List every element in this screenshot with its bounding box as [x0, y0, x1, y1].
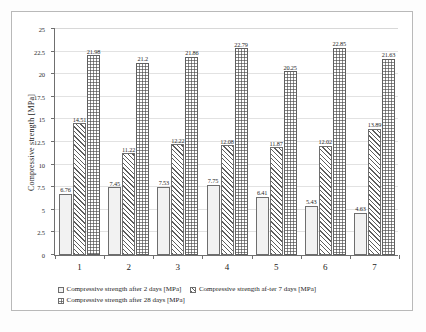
bar-group: 5.4312.0222.85 — [305, 29, 346, 255]
y-axis-tick-label: 20 — [39, 71, 45, 78]
legend-label: Compressive strength after 28 days [MPa] — [67, 295, 185, 306]
bar-value-label: 12.22 — [171, 137, 184, 144]
y-axis-tick: 5 — [51, 209, 55, 210]
y-axis-tick-label: 10 — [39, 161, 45, 168]
x-axis-tick — [301, 255, 302, 259]
legend-swatch-icon — [58, 298, 64, 304]
bar-value-label: 13.89 — [368, 121, 381, 128]
x-axis-tick — [252, 255, 253, 259]
y-axis-tick: 15 — [51, 118, 55, 119]
bar: 21.63 — [382, 59, 395, 255]
bar: 11.87 — [270, 147, 283, 255]
bar-value-label: 14.51 — [73, 116, 86, 123]
bar: 21.98 — [87, 55, 100, 255]
bar: 6.76 — [59, 194, 72, 255]
x-axis-category-label: 4 — [225, 262, 230, 272]
y-axis-tick: 25 — [51, 28, 55, 29]
y-axis-tick-label: 5 — [42, 206, 45, 213]
bar: 7.45 — [108, 187, 121, 255]
bar: 7.53 — [157, 187, 170, 255]
legend-item[interactable]: Compressive strength after 28 days [MPa] — [58, 295, 185, 306]
bar-value-label: 22.85 — [333, 40, 346, 47]
bar: 11.22 — [122, 153, 135, 255]
bar: 13.89 — [368, 129, 381, 255]
x-axis-category-label: 3 — [176, 262, 181, 272]
bar-value-label: 20.25 — [283, 64, 296, 71]
bar: 12.02 — [319, 146, 332, 255]
x-axis-tick — [55, 255, 56, 259]
bar: 12.08 — [221, 145, 234, 255]
y-axis-tick-label: 7.5 — [37, 184, 45, 191]
y-axis-tick-label: 17.5 — [34, 93, 45, 100]
x-axis-tick — [104, 255, 105, 259]
legend-label: Compressive strength af-ter 7 days [MPa] — [199, 284, 316, 295]
y-axis-tick: 10 — [51, 164, 55, 165]
x-axis-category-label: 6 — [323, 262, 328, 272]
bar-group: 7.5312.2221.86 — [157, 29, 198, 255]
figure-root: Compressive strength [MPa] 02.557.51012.… — [0, 0, 426, 332]
y-axis-tick-label: 25 — [39, 26, 45, 33]
bar-value-label: 21.86 — [185, 49, 198, 56]
bar-value-label: 21.63 — [382, 51, 395, 58]
y-axis-tick: 22.5 — [51, 51, 55, 52]
bar: 4.63 — [354, 213, 367, 255]
bar-value-label: 22.79 — [234, 41, 247, 48]
bar-value-label: 6.76 — [60, 186, 70, 193]
y-axis-tick-label: 0 — [42, 252, 45, 259]
y-axis-tick-label: 15 — [39, 116, 45, 123]
bar-value-label: 21.98 — [87, 48, 100, 55]
bar-group: 7.4511.2221.2 — [108, 29, 149, 255]
x-axis-tick — [350, 255, 351, 259]
y-axis-tick: 7.5 — [51, 186, 55, 187]
y-axis-tick: 12.5 — [51, 141, 55, 142]
x-axis-tick — [399, 255, 400, 259]
plot-area: 02.557.51012.51517.52022.525 6.7614.5121… — [54, 29, 398, 256]
bar: 5.43 — [305, 206, 318, 255]
bar-group: 7.7512.0822.79 — [207, 29, 248, 255]
bar-group: 6.7614.5121.98 — [59, 29, 100, 255]
bar-value-label: 4.63 — [355, 205, 365, 212]
bar-value-label: 11.87 — [270, 140, 283, 147]
legend-row: Compressive strength after 2 days [MPa]C… — [58, 284, 388, 295]
bar-value-label: 12.02 — [319, 138, 332, 145]
y-axis-tick: 2.5 — [51, 231, 55, 232]
bar: 7.75 — [207, 185, 220, 255]
bar: 21.2 — [136, 63, 149, 255]
legend-swatch-icon — [190, 287, 196, 293]
bar: 20.25 — [284, 71, 297, 255]
bar: 14.51 — [73, 123, 86, 255]
legend-item[interactable]: Compressive strength after 2 days [MPa] — [58, 284, 181, 295]
bar-value-label: 6.41 — [257, 189, 267, 196]
bar-value-label: 11.22 — [122, 146, 135, 153]
x-axis-category-label: 7 — [372, 262, 377, 272]
bar-value-label: 7.75 — [208, 177, 218, 184]
legend-row: Compressive strength after 28 days [MPa] — [58, 295, 388, 306]
y-axis-tick-label: 22.5 — [34, 48, 45, 55]
bar: 21.86 — [185, 57, 198, 255]
bar-group: 4.6313.8921.63 — [354, 29, 395, 255]
bar-value-label: 12.08 — [220, 138, 233, 145]
chart-legend: Compressive strength after 2 days [MPa]C… — [58, 284, 388, 306]
x-axis-category-label: 5 — [274, 262, 279, 272]
bar: 12.22 — [171, 144, 184, 255]
legend-label: Compressive strength after 2 days [MPa] — [67, 284, 182, 295]
y-axis-tick-label: 12.5 — [34, 139, 45, 146]
bar: 22.85 — [333, 48, 346, 255]
x-axis-tick — [202, 255, 203, 259]
x-axis-category-label: 1 — [77, 262, 82, 272]
chart-frame: Compressive strength [MPa] 02.557.51012.… — [11, 11, 413, 311]
y-axis-tick-label: 2.5 — [37, 229, 45, 236]
y-axis-tick: 17.5 — [51, 96, 55, 97]
x-axis-category-label: 2 — [126, 262, 131, 272]
bar-value-label: 7.53 — [159, 179, 169, 186]
bar-value-label: 7.45 — [109, 180, 119, 187]
bar-group: 6.4111.8720.25 — [256, 29, 297, 255]
y-axis-tick: 20 — [51, 73, 55, 74]
bar: 6.41 — [256, 197, 269, 255]
bar-value-label: 21.2 — [137, 55, 147, 62]
legend-swatch-icon — [58, 287, 64, 293]
bar-value-label: 5.43 — [306, 198, 316, 205]
bar: 22.79 — [235, 48, 248, 255]
x-axis-tick — [153, 255, 154, 259]
legend-item[interactable]: Compressive strength af-ter 7 days [MPa] — [190, 284, 316, 295]
